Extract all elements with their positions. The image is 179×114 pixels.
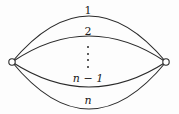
right-vertex <box>163 59 169 65</box>
ellipsis-dot <box>87 53 89 55</box>
ellipsis-dot <box>87 66 89 68</box>
edge-n-1-label: n − 1 <box>73 73 103 84</box>
edge-2-label: 2 <box>85 26 92 37</box>
ellipsis-dot <box>87 59 89 61</box>
edge-2 <box>12 36 166 62</box>
vertical-ellipsis <box>87 46 89 68</box>
edge-1-label: 1 <box>85 5 92 16</box>
vertices-group <box>9 59 169 65</box>
edge-1 <box>12 16 166 62</box>
edge-n-label: n <box>84 95 91 106</box>
ellipsis-dot <box>87 46 89 48</box>
left-vertex <box>9 59 15 65</box>
